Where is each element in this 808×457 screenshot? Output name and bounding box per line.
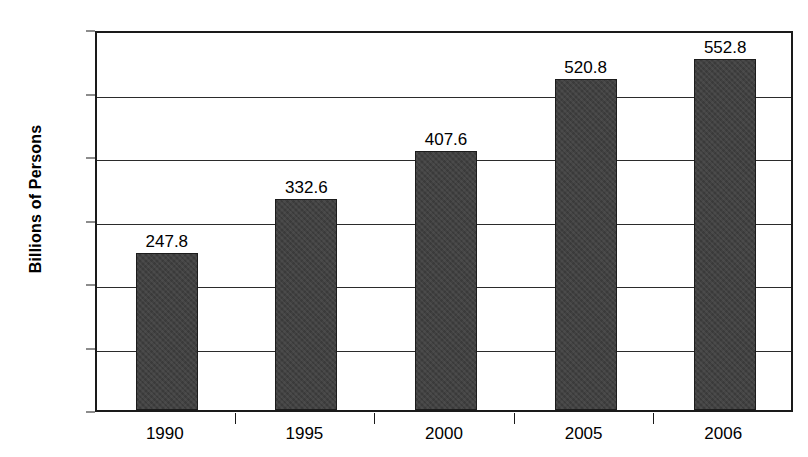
y-tick-mark [86, 31, 95, 32]
bar [275, 199, 337, 410]
bar [136, 253, 198, 410]
y-tick-mark [86, 158, 95, 159]
y-axis-title: Billions of Persons [27, 69, 45, 329]
bar [555, 79, 617, 410]
bar-chart: Billions of Persons 6005004003002001000 … [0, 0, 808, 457]
gridline [97, 97, 791, 98]
y-tick-mark [86, 221, 95, 222]
plot-area: 247.8332.6407.6520.8552.8 [95, 31, 793, 412]
x-tick-mark [653, 413, 654, 424]
x-tick-label: 1995 [254, 424, 354, 444]
bar-value-label: 552.8 [675, 38, 775, 58]
x-tick-mark [374, 413, 375, 424]
x-tick-label: 2006 [673, 424, 773, 444]
bar [415, 151, 477, 410]
bar-value-label: 332.6 [256, 178, 356, 198]
y-tick-mark [86, 412, 95, 413]
bar-value-label: 520.8 [536, 58, 636, 78]
bar [694, 59, 756, 410]
y-tick-mark [86, 94, 95, 95]
x-tick-label: 1990 [115, 424, 215, 444]
bar-value-label: 247.8 [117, 232, 217, 252]
x-tick-label: 2000 [394, 424, 494, 444]
bar-value-label: 407.6 [396, 130, 496, 150]
x-tick-label: 2005 [534, 424, 634, 444]
x-tick-mark [514, 413, 515, 424]
x-tick-mark [235, 413, 236, 424]
y-tick-mark [86, 348, 95, 349]
y-tick-mark [86, 285, 95, 286]
